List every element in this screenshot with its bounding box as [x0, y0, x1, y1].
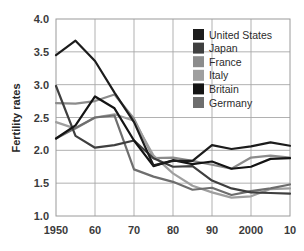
legend-label: Italy [209, 69, 229, 81]
y-tick-label: 3.5 [34, 46, 49, 58]
legend-swatch-icon [193, 97, 204, 108]
legend-label: Germany [209, 97, 253, 109]
y-tick-label: 1.5 [34, 177, 49, 189]
y-tick-label: 3.0 [34, 79, 49, 91]
x-tick-label: 70 [128, 224, 140, 236]
legend-swatch-icon [193, 43, 204, 54]
x-tick-label: 60 [89, 224, 101, 236]
legend-swatch-icon [193, 29, 204, 40]
legend-item-britain[interactable]: Britain [193, 83, 239, 95]
x-tick-label: 2000 [239, 224, 263, 236]
y-tick-label: 2.5 [34, 112, 49, 124]
x-tick-label: 1950 [44, 224, 68, 236]
y-tick-label: 2.0 [34, 144, 49, 156]
legend-swatch-icon [193, 83, 204, 94]
fertility-rates-chart: 1.01.52.02.53.03.54.0 195060708090200010… [0, 0, 304, 251]
x-tick-label: 80 [167, 224, 179, 236]
legend-item-france[interactable]: France [193, 56, 242, 68]
legend-item-italy[interactable]: Italy [193, 69, 229, 81]
legend-item-germany[interactable]: Germany [193, 97, 253, 109]
y-tick-label: 4.0 [34, 13, 49, 25]
legend-label: United States [209, 29, 272, 41]
x-tick-label: 90 [206, 224, 218, 236]
legend-swatch-icon [193, 70, 204, 81]
legend-item-japan[interactable]: Japan [193, 42, 238, 54]
legend-label: Japan [209, 42, 238, 54]
y-tick-label: 1.0 [34, 210, 49, 222]
legend-label: Britain [209, 83, 239, 95]
x-tick-label: 10 [284, 224, 296, 236]
legend-label: France [209, 56, 242, 68]
y-axis-title: Fertility rates [10, 83, 22, 152]
chart-canvas: 1.01.52.02.53.03.54.0 195060708090200010… [0, 0, 304, 251]
legend-swatch-icon [193, 56, 204, 67]
